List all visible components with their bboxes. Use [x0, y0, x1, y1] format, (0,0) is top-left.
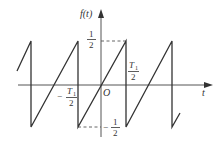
svg-text:2: 2	[131, 72, 136, 82]
svg-text:2: 2	[89, 40, 94, 50]
origin-label: O	[103, 87, 110, 98]
x-axis-label: t	[202, 87, 205, 98]
x-axis-arrow-icon	[204, 82, 213, 88]
sawtooth-waveform	[17, 41, 180, 127]
label-t1-half-negative: − T 1 2	[57, 86, 77, 108]
y-axis-arrow-icon	[98, 9, 104, 18]
svg-text:2: 2	[113, 128, 118, 138]
label-half-negative: − 1 2	[103, 117, 120, 138]
svg-text:1: 1	[113, 117, 118, 127]
svg-text:1: 1	[73, 91, 76, 97]
svg-text:−: −	[103, 122, 108, 132]
svg-text:2: 2	[69, 98, 74, 108]
y-axis-label: f(t)	[80, 8, 93, 20]
svg-text:1: 1	[89, 29, 94, 39]
svg-text:−: −	[57, 91, 62, 101]
label-half-positive: 1 2	[87, 29, 96, 50]
label-t1-half-positive: T 1 2	[128, 60, 139, 82]
svg-text:1: 1	[135, 65, 138, 71]
sawtooth-diagram: f(t) t O 1 2 − 1 2 T 1 2 − T 1 2	[0, 0, 219, 147]
